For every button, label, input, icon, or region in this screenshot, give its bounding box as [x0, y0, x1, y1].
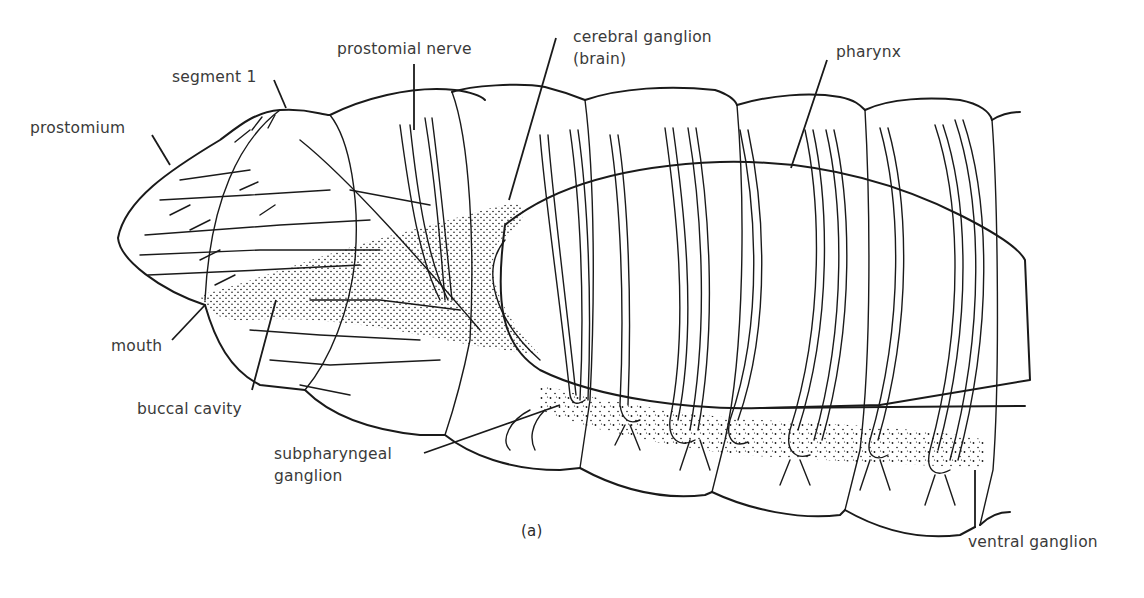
label-brain: (brain) — [573, 50, 626, 69]
leader-segment-1 — [274, 80, 286, 108]
label-ventral-ganglion: ventral ganglion — [968, 533, 1098, 552]
leader-cerebral-ganglion — [509, 38, 556, 200]
figure-caption: (a) — [521, 522, 543, 541]
label-mouth: mouth — [111, 337, 162, 356]
label-prostomial-nerve: prostomial nerve — [337, 40, 472, 59]
ventral-nerve-cord — [540, 385, 985, 468]
label-cerebral-ganglion: cerebral ganglion — [573, 28, 712, 47]
label-subpharyngeal-ganglion: ganglion — [274, 467, 343, 486]
label-subpharyngeal: subpharyngeal — [274, 445, 392, 464]
worm-drawing — [0, 0, 1144, 598]
label-prostomium: prostomium — [30, 119, 125, 138]
label-pharynx: pharynx — [836, 43, 901, 62]
leader-subpharyngeal-ganglion — [424, 405, 560, 453]
label-buccal-cavity: buccal cavity — [137, 400, 242, 419]
anatomy-figure: segment 1 prostomium prostomial nerve ce… — [0, 0, 1144, 598]
leader-mouth — [172, 305, 205, 340]
label-segment-1: segment 1 — [172, 68, 257, 87]
leader-prostomium — [152, 135, 170, 165]
